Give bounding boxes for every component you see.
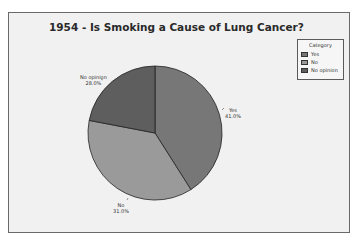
label-yes: Yes41.0% xyxy=(225,107,241,119)
label-no-opinion: No opinion28.0% xyxy=(80,74,107,86)
label-no: No31.0% xyxy=(113,202,129,214)
legend-item-yes: Yes xyxy=(301,51,319,57)
legend: Category Yes No No opinion xyxy=(297,39,344,80)
legend-swatch xyxy=(301,52,308,57)
legend-item-no-opinion: No opinion xyxy=(301,67,338,73)
legend-title: Category xyxy=(309,42,332,48)
pie-chart xyxy=(0,0,357,246)
legend-swatch xyxy=(301,60,308,65)
legend-item-no: No xyxy=(301,59,318,65)
legend-swatch xyxy=(301,68,308,73)
